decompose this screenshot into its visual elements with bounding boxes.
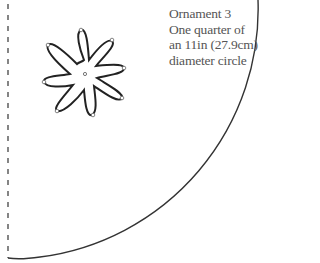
- center-dot: [83, 72, 86, 75]
- ornament-title: Ornament 3: [169, 6, 260, 22]
- petal-tip-dot: [46, 43, 50, 47]
- petal-tip-dot: [91, 113, 95, 117]
- petal-tip-dot: [110, 38, 114, 42]
- petal-tip-dot: [42, 80, 46, 84]
- petal-tip-dot: [79, 28, 83, 32]
- ornament-label: Ornament 3 One quarter of an 11in (27.9c…: [169, 6, 260, 68]
- petal-tip-dot: [120, 96, 124, 100]
- petal-tip-dot: [122, 66, 126, 70]
- flower-motif: [42, 28, 126, 117]
- petal-tip-dot: [55, 109, 59, 113]
- label-line: diameter circle: [169, 53, 260, 69]
- label-line: One quarter of: [169, 22, 260, 38]
- label-line: an 11in (27.9cm): [169, 37, 260, 53]
